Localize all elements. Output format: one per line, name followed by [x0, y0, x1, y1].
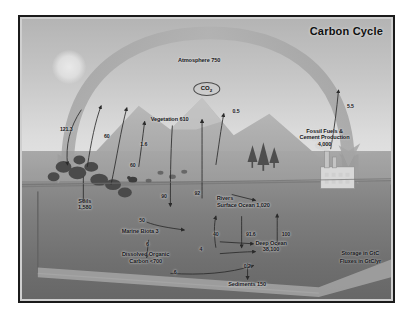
- co2-subscript: 2: [210, 88, 212, 93]
- units-legend: Storage in GtC Fluxes in GtC/yr: [340, 250, 381, 265]
- figure-title: Carbon Cycle: [310, 25, 383, 37]
- flux-burial-0-2: 0.2: [232, 264, 262, 270]
- label-sediments: Sediments 150: [195, 281, 298, 287]
- sediment-layer: [38, 260, 391, 297]
- label-vegetation: Vegetation 610: [122, 116, 218, 122]
- flux-ocean-evasion-92: 92: [183, 191, 213, 197]
- flux-biota-6a: 6: [135, 242, 161, 248]
- flux-plant-respiration-60: 60: [92, 134, 122, 140]
- flux-gpp-121: 121.3: [40, 127, 92, 133]
- flux-doc-6b: 6: [162, 270, 188, 276]
- cow-icon: [127, 176, 137, 183]
- flux-soil-respiration-60: 60: [118, 163, 148, 169]
- flux-downwelling-100: 100: [271, 232, 301, 238]
- screenshot-root: Carbon Cycle Storage in GtC Fluxes in Gt…: [0, 0, 413, 329]
- flux-ocean-uptake-90: 90: [149, 194, 179, 200]
- figure-canvas: Carbon Cycle Storage in GtC Fluxes in Gt…: [22, 19, 391, 299]
- label-surface-ocean: Surface Ocean 1,020: [177, 202, 310, 208]
- flux-upwelling-40: 40: [203, 232, 229, 238]
- carbon-cycle-figure: Carbon Cycle Storage in GtC Fluxes in Gt…: [18, 15, 395, 303]
- label-dissolved-organic-carbon: Dissolved Organic Carbon <700: [85, 251, 207, 264]
- flux-doc-4: 4: [188, 247, 214, 253]
- flux-volcanism-0-5: 0.5: [221, 109, 251, 115]
- label-deep-ocean: Deep Ocean 38,100: [225, 240, 317, 253]
- flux-fossil-emissions-5-5: 5.5: [336, 104, 366, 110]
- flux-land-use-1-6: 1.6: [129, 142, 159, 148]
- label-atmosphere: Atmosphere 750: [147, 57, 250, 63]
- label-marine-biota: Marine Biota 3: [92, 228, 188, 234]
- label-soils: Soils 1,580: [55, 198, 114, 211]
- flux-export-production-50: 50: [127, 218, 157, 224]
- label-fossil-fuels: Fossil Fuels & Cement Production 4,000: [269, 128, 380, 147]
- co2-text: CO: [201, 85, 210, 91]
- flux-deep-exchange-91-6: 91.6: [232, 232, 269, 238]
